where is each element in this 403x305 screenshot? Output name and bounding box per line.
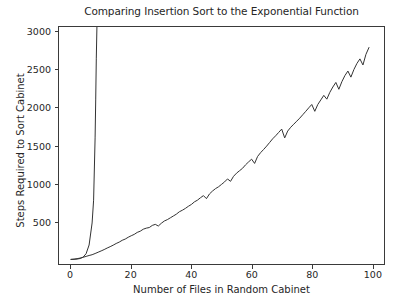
series-line xyxy=(71,48,369,260)
series-line xyxy=(71,27,97,259)
x-tick-mark xyxy=(131,265,132,269)
chart-figure: Comparing Insertion Sort to the Exponent… xyxy=(0,0,403,305)
x-tick-mark xyxy=(312,265,313,269)
plot-area xyxy=(58,26,385,265)
x-tick-mark xyxy=(70,265,71,269)
x-tick-label: 20 xyxy=(111,269,151,280)
x-tick-mark xyxy=(191,265,192,269)
x-tick-label: 0 xyxy=(50,269,90,280)
x-tick-mark xyxy=(373,265,374,269)
x-tick-mark xyxy=(252,265,253,269)
x-tick-label: 60 xyxy=(232,269,272,280)
x-tick-label: 40 xyxy=(171,269,211,280)
plot-lines xyxy=(59,27,384,264)
x-tick-label: 100 xyxy=(353,269,393,280)
x-tick-label: 80 xyxy=(292,269,332,280)
